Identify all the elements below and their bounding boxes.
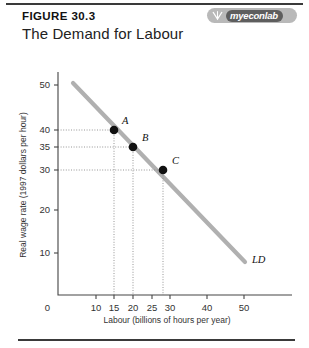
y-tick-0: 0 [45,302,50,313]
x-tick-10: 10 [91,302,102,313]
demand-curve-ld [73,83,245,262]
x-tick-15: 15 [109,302,120,313]
y-tick-40: 40 [39,124,50,135]
x-axis-title: Labour (billions of hours per year) [103,315,230,325]
x-tick-20: 20 [128,302,139,313]
data-point-label-a: A [121,115,129,126]
x-tick-30: 30 [165,302,176,313]
x-tick-40: 40 [202,302,213,313]
bottom-divider [18,339,295,341]
data-point-label-b: B [142,132,149,143]
guide-lines-point-a [58,130,114,295]
x-tick-50: 50 [239,302,250,313]
series-label-ld: LD [251,254,266,265]
y-tick-10: 10 [39,247,50,258]
data-point-label-c: C [172,155,180,166]
x-tick-25: 25 [147,302,158,313]
guide-lines-point-c [58,170,163,295]
data-point-a [110,126,119,135]
x-axis-ticks [96,295,244,299]
guide-lines-point-b [58,147,133,295]
y-tick-20: 20 [39,204,50,215]
y-axis-ticks [54,85,58,253]
y-tick-50: 50 [39,79,50,90]
data-point-c [159,166,168,175]
chart-plot-area: 50 40 35 30 20 10 0 10 15 20 [0,0,309,348]
figure-panel: FIGURE 30.3 The Demand for Labour myecon… [0,0,309,348]
y-tick-30: 30 [39,164,50,175]
y-tick-35: 35 [39,141,50,152]
x-axis-tick-labels: 10 15 20 25 30 40 50 [91,302,250,313]
y-axis-tick-labels: 50 40 35 30 20 10 0 [39,79,50,313]
demand-curve-chart: 50 40 35 30 20 10 0 10 15 20 [0,0,309,348]
y-axis-title: Real wage rate (1997 dollars per hour) [18,112,28,258]
data-point-b [129,143,138,152]
